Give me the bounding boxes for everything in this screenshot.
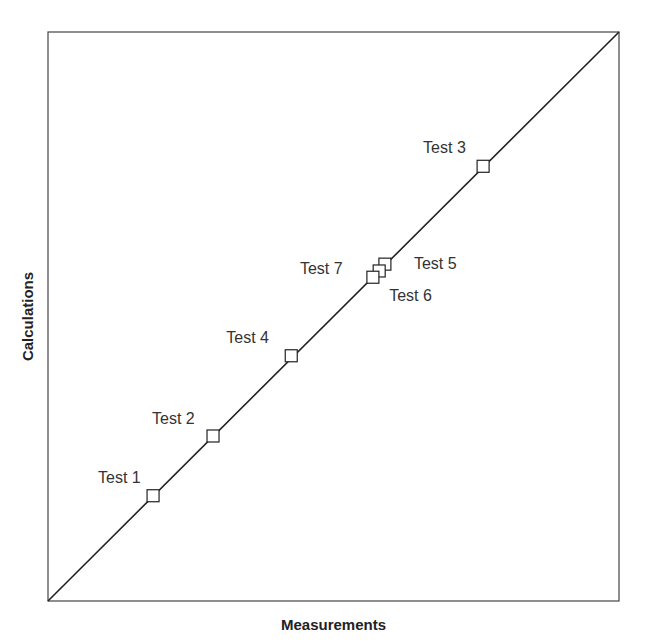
square-marker-icon <box>367 271 379 283</box>
data-points: Test 1Test 2Test 3Test 4Test 5Test 6Test… <box>98 139 489 501</box>
point-label: Test 3 <box>423 139 466 156</box>
scatter-chart: Test 1Test 2Test 3Test 4Test 5Test 6Test… <box>0 0 646 644</box>
identity-line <box>48 32 619 601</box>
point-label: Test 2 <box>152 410 195 427</box>
square-marker-icon <box>147 490 159 502</box>
point-label: Test 4 <box>226 329 269 346</box>
point-label: Test 1 <box>98 469 141 486</box>
square-marker-icon <box>477 160 489 172</box>
point-label: Test 7 <box>300 260 343 277</box>
x-axis-title: Measurements <box>281 616 386 633</box>
square-marker-icon <box>207 430 219 442</box>
point-label: Test 5 <box>414 255 457 272</box>
point-label: Test 6 <box>389 287 432 304</box>
square-marker-icon <box>285 350 297 362</box>
y-axis-title: Calculations <box>19 272 36 361</box>
